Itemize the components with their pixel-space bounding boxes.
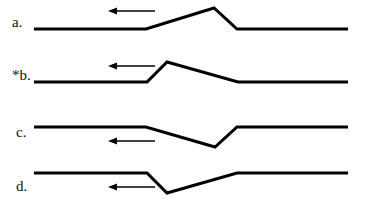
label-b: *b. <box>12 67 31 83</box>
label-c: c. <box>16 124 26 140</box>
panel-c: c. <box>16 124 348 147</box>
waveform-b <box>34 62 348 82</box>
panel-b: *b. <box>12 62 348 83</box>
left-arrow-icon <box>108 63 155 70</box>
label-a: a. <box>12 14 22 30</box>
waveform-a <box>34 8 348 29</box>
panel-a: a. <box>12 8 348 31</box>
panel-d: d. <box>16 173 348 194</box>
left-arrow-icon <box>108 8 155 15</box>
waveform-c <box>34 127 348 147</box>
waveform-diagram: a. *b. c. d. <box>0 0 366 205</box>
waveform-d <box>34 173 348 193</box>
left-arrow-icon <box>108 138 155 145</box>
left-arrow-icon <box>108 184 155 191</box>
label-d: d. <box>16 178 27 194</box>
